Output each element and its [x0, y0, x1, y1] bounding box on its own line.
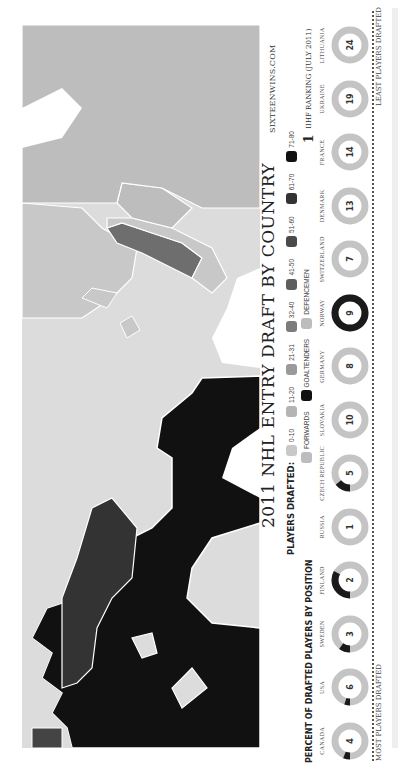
country-name: FRANCE: [318, 125, 328, 181]
legend-bin: 41-50: [286, 259, 297, 290]
country-item: FINLAND2: [318, 553, 370, 609]
country-name: USA: [318, 660, 328, 716]
country-name: NORWAY: [318, 285, 328, 341]
legend-bin: 21-31: [286, 344, 297, 375]
country-item: SLOVAKIA10: [318, 392, 370, 448]
iihf-rank: 5: [346, 470, 355, 476]
position-legend-row: PERCENT OF DRAFTED PLAYERS BY POSITION F…: [300, 3, 318, 763]
credit-text: SIXTEENWINS.COM: [268, 45, 277, 133]
chart-title: 2011 NHL ENTRY DRAFT BY COUNTRY: [258, 128, 278, 528]
legend-label: PLAYERS DRAFTED:: [286, 462, 296, 555]
country-name: SWITZERLAND: [318, 232, 328, 288]
legend-bin: 32-40: [286, 302, 297, 333]
iihf-rank: 7: [346, 257, 355, 263]
country-name: UKRAINE: [318, 71, 328, 127]
position-donut: 8: [330, 347, 370, 387]
iihf-rank: 1: [346, 524, 355, 530]
country-item: NORWAY9: [318, 285, 370, 341]
position-legend-label: PERCENT OF DRAFTED PLAYERS BY POSITION: [305, 559, 314, 763]
country-item: USA6: [318, 660, 370, 716]
iihf-rank: 8: [346, 363, 355, 369]
world-map: [22, 25, 260, 748]
position-donut: 19: [330, 79, 370, 119]
legend-forwards: FORWARDS: [301, 411, 312, 463]
position-donut: 1: [330, 507, 370, 547]
country-name: RUSSIA: [318, 499, 328, 555]
iihf-rank: 4: [346, 738, 355, 744]
country-name: FINLAND: [318, 553, 328, 609]
country-name: SWEDEN: [318, 606, 328, 662]
country-name: LITHUANIA: [318, 18, 328, 74]
position-donut: 10: [330, 400, 370, 440]
position-donut: 2: [330, 561, 370, 601]
iihf-rank: 9: [346, 310, 355, 316]
iihf-rank: 3: [346, 631, 355, 637]
country-item: SWITZERLAND7: [318, 232, 370, 288]
ranking-symbol: 1: [302, 135, 316, 143]
iihf-rank: 19: [346, 93, 355, 105]
country-name: GERMANY: [318, 339, 328, 395]
axis-label-least: LEAST PLAYERS DRAFTED: [375, 7, 383, 106]
country-item: CZECH REPUBLIC5: [318, 446, 370, 502]
country-item: SWEDEN3: [318, 606, 370, 662]
page-shadow: [392, 8, 398, 748]
dotted-axis-line: [372, 11, 374, 761]
legend-goaltenders: GOALTENDERS: [301, 339, 312, 402]
country-item: CANADA4: [318, 713, 370, 769]
country-name: CZECH REPUBLIC: [318, 446, 328, 502]
legend-bin: 61-70: [286, 174, 297, 205]
iihf-rank: 6: [346, 684, 355, 690]
position-donut: 9: [330, 293, 370, 333]
country-item: DENMARK13: [318, 178, 370, 234]
position-donut: 6: [330, 668, 370, 708]
legend-bin: 0-10: [286, 429, 297, 456]
map-svg: [22, 25, 260, 748]
iihf-rank: 10: [346, 414, 355, 426]
ranking-text: IIHF RANKING (JULY 2011): [305, 29, 313, 129]
country-item: LITHUANIA24: [318, 18, 370, 74]
position-donut: 24: [330, 26, 370, 66]
position-donut: 13: [330, 186, 370, 226]
legend-bin: 71-80: [286, 131, 297, 162]
iihf-rank: 13: [346, 200, 355, 211]
position-legend: FORWARDS GOALTENDERS DEFENCEMEN: [301, 259, 312, 463]
iihf-rank: 14: [346, 147, 355, 159]
players-drafted-legend: PLAYERS DRAFTED: 0-10 11-20 21-31 32-40 …: [283, 119, 299, 555]
country-name: CANADA: [318, 713, 328, 769]
position-donut: 3: [330, 614, 370, 654]
position-donut: 5: [330, 454, 370, 494]
axis-label-most: MOST PLAYERS DRAFTED: [375, 664, 383, 761]
country-item: RUSSIA1: [318, 499, 370, 555]
infographic-canvas: 2011 NHL ENTRY DRAFT BY COUNTRY SIXTEENW…: [0, 0, 408, 773]
position-donut: 4: [330, 721, 370, 761]
country-donuts: CANADA4USA6SWEDEN3FINLAND2RUSSIA1CZECH R…: [318, 3, 380, 763]
country-item: FRANCE14: [318, 125, 370, 181]
country-name: SLOVAKIA: [318, 392, 328, 448]
iihf-rank: 24: [346, 40, 355, 52]
iihf-ranking-note: 1 IIHF RANKING (JULY 2011): [302, 29, 316, 144]
position-donut: 14: [330, 133, 370, 173]
iihf-rank: 2: [346, 578, 355, 584]
country-item: UKRAINE19: [318, 71, 370, 127]
legend-bin: 51-60: [286, 216, 297, 247]
country-item: GERMANY8: [318, 339, 370, 395]
legend-defencemen: DEFENCEMEN: [301, 269, 312, 329]
legend-bin: 11-20: [286, 387, 297, 417]
position-donut: 7: [330, 240, 370, 280]
country-name: DENMARK: [318, 178, 328, 234]
